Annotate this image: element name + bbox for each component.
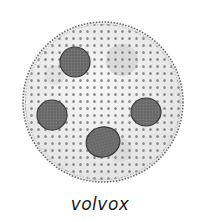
figure-caption: volvox xyxy=(0,194,200,214)
daughter-colony xyxy=(60,47,90,77)
daughter-colony xyxy=(131,98,161,126)
daughter-colony xyxy=(37,100,67,130)
volvox-illustration xyxy=(0,0,200,222)
